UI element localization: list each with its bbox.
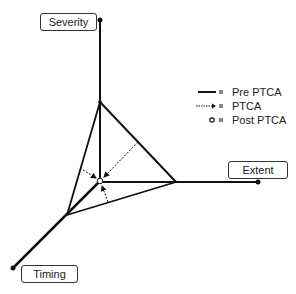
post-ptca-point [97, 178, 103, 184]
axes [11, 18, 261, 271]
open-circle-icon [188, 113, 228, 127]
dotted-arrow-icon [188, 99, 228, 113]
severity-axis-end-dot [98, 18, 103, 23]
extent-axis-end-dot [256, 180, 261, 185]
solid-line-icon [188, 85, 228, 99]
ptca-arrow-extent-timing [102, 186, 108, 202]
severity-axis-label: Severity [40, 13, 97, 31]
timing-axis-end-dot [11, 266, 16, 271]
timing-axis-label: Timing [21, 265, 78, 283]
legend: Pre PTCA PTCA Post PTCA [188, 85, 286, 127]
triaxial-diagram [0, 0, 296, 294]
timing-axis [13, 181, 100, 268]
ptca-arrow-severity-extent [104, 142, 138, 177]
legend-item-pre-ptca: Pre PTCA [188, 85, 286, 99]
ptca-arrow-severity-timing [80, 168, 96, 178]
legend-item-post-ptca: Post PTCA [188, 113, 286, 127]
extent-axis-label: Extent [228, 161, 288, 179]
legend-item-ptca: PTCA [188, 99, 286, 113]
